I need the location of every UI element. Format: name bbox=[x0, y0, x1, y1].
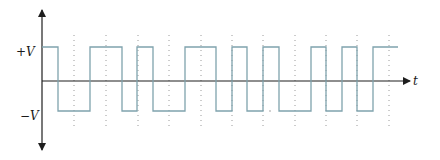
square-waveform bbox=[42, 47, 398, 111]
square-wave-diagram: +V −V t bbox=[0, 0, 440, 160]
stray-dot bbox=[269, 110, 271, 112]
positive-voltage-label: +V bbox=[16, 45, 36, 59]
time-axis-label: t bbox=[413, 74, 418, 88]
negative-voltage-label: −V bbox=[20, 109, 40, 123]
